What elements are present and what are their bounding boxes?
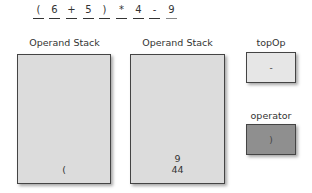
operator-value: ) bbox=[247, 135, 295, 145]
token-5: * bbox=[116, 4, 127, 16]
token-underline bbox=[166, 18, 177, 19]
token-1: 6 bbox=[49, 4, 60, 16]
stack-item: ( bbox=[18, 164, 110, 175]
token-3: 5 bbox=[83, 4, 94, 16]
stack-item: 44 bbox=[131, 164, 224, 175]
token-underline bbox=[83, 18, 94, 19]
operand-stack-1-label: Operand Stack bbox=[17, 37, 112, 48]
token-underline bbox=[66, 18, 77, 19]
token-underline bbox=[149, 18, 160, 19]
token-underline bbox=[133, 18, 144, 19]
topop-label: topOp bbox=[246, 37, 296, 48]
token-0: ( bbox=[33, 4, 44, 16]
token-7: - bbox=[149, 4, 160, 16]
topop-value: - bbox=[247, 63, 295, 73]
token-underline bbox=[99, 18, 110, 19]
token-underline bbox=[49, 18, 60, 19]
token-2: + bbox=[66, 4, 77, 16]
operator-box: ) bbox=[246, 124, 296, 155]
token-6: 4 bbox=[133, 4, 144, 16]
operand-stack-1: ( bbox=[17, 54, 111, 184]
stack-1-items: ( bbox=[18, 164, 110, 175]
token-8: 9 bbox=[166, 4, 177, 16]
stack-2-items: 9 44 bbox=[131, 153, 224, 175]
stack-item: 9 bbox=[131, 153, 224, 164]
operator-label: operator bbox=[246, 110, 296, 121]
operand-stack-2-label: Operand Stack bbox=[130, 37, 225, 48]
topop-box: - bbox=[246, 52, 296, 83]
token-underline bbox=[116, 18, 127, 19]
operand-stack-2: 9 44 bbox=[130, 54, 225, 184]
token-4: ) bbox=[99, 4, 110, 16]
token-underline bbox=[33, 18, 44, 19]
